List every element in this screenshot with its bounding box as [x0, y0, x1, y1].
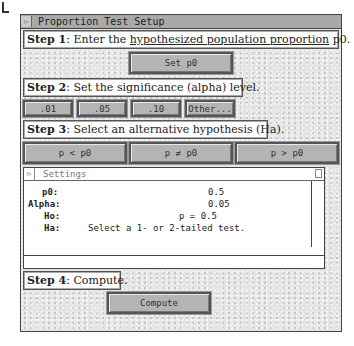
horizontal-scrollbar[interactable]	[24, 255, 324, 268]
settings-row-p0: p0: 0.5	[24, 187, 311, 198]
ho-label: Ho:	[44, 211, 60, 221]
set-p0-button[interactable]: Set p0	[129, 52, 233, 74]
alpha-value: 0.05	[208, 199, 230, 209]
settings-row-ha: Ha: Select a 1- or 2-tailed test.	[24, 223, 311, 234]
ha-label: Ha:	[44, 223, 60, 233]
collapse-triangle-icon[interactable]: ▷	[21, 16, 32, 27]
step2-heading: Step 2	[27, 81, 66, 94]
p0-label: p0:	[42, 187, 58, 197]
step1-heading: Step 1	[27, 33, 66, 46]
compute-button[interactable]: Compute	[107, 292, 211, 314]
corner-mark	[2, 2, 9, 13]
alpha-01-button[interactable]: .01	[23, 100, 73, 117]
step2-text: : Set the significance (alpha) level.	[66, 81, 259, 94]
ha-greater-than-button[interactable]: p > p0	[235, 142, 339, 164]
step1-text-end: p0.	[329, 33, 350, 46]
step1-label: Step 1: Enter the hypothesized populatio…	[23, 30, 339, 49]
settings-collapse-triangle-icon[interactable]: ▷	[24, 168, 35, 180]
alpha-other-button[interactable]: Other...	[185, 100, 235, 117]
title-bar[interactable]: ▷ Proportion Test Setup	[21, 15, 341, 29]
alpha-label: Alpha:	[28, 199, 61, 209]
step3-text: : Select an alternative hypothesis (Ha).	[66, 123, 284, 136]
alpha-05-button[interactable]: .05	[77, 100, 127, 117]
ha-less-than-button[interactable]: p < p0	[23, 142, 127, 164]
settings-title: Settings	[43, 169, 86, 179]
step3-label: Step 3: Select an alternative hypothesis…	[23, 120, 268, 139]
proportion-test-window: ▷ Proportion Test Setup Step 1: Enter th…	[20, 14, 342, 332]
step4-heading: Step 4	[27, 274, 66, 287]
ha-value: Select a 1- or 2-tailed test.	[88, 223, 245, 233]
step1-text: : Enter the	[66, 33, 130, 46]
step3-heading: Step 3	[27, 123, 66, 136]
step2-label: Step 2: Set the significance (alpha) lev…	[23, 78, 243, 97]
settings-content: p0: 0.5 Alpha: 0.05 Ho: p = 0.5 Ha: Sele…	[24, 181, 312, 247]
settings-row-alpha: Alpha: 0.05	[24, 199, 311, 210]
step4-label: Step 4: Compute.	[23, 271, 121, 290]
alpha-10-button[interactable]: .10	[131, 100, 181, 117]
settings-header: ▷ Settings	[24, 168, 324, 181]
p0-value: 0.5	[208, 187, 224, 197]
window-title: Proportion Test Setup	[38, 16, 164, 27]
settings-row-ho: Ho: p = 0.5	[24, 211, 311, 222]
settings-panel: ▷ Settings p0: 0.5 Alpha: 0.05 Ho: p = 0…	[23, 167, 325, 269]
hypothesized-proportion-link[interactable]: hypothesized population proportion	[130, 33, 329, 46]
ha-not-equal-button[interactable]: p ≠ p0	[129, 142, 233, 164]
document-icon[interactable]	[315, 169, 322, 178]
step4-text: : Compute.	[66, 274, 127, 287]
ho-value: p = 0.5	[179, 211, 217, 221]
